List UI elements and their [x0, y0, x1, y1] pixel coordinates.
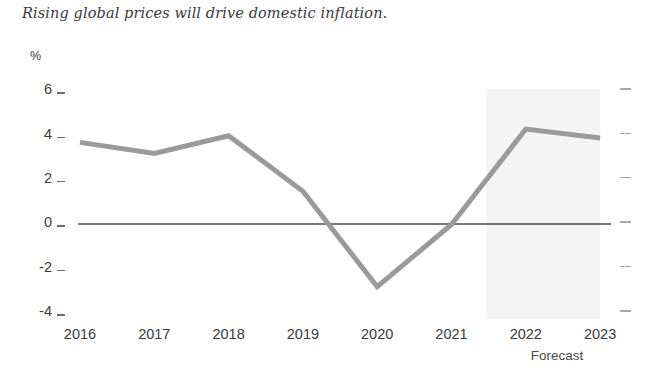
forecast-region-label: Forecast [477, 348, 637, 363]
y-tick-mark [57, 137, 65, 139]
y-tick-mark-right [620, 177, 631, 179]
y-tick-mark [57, 92, 65, 94]
y-tick-mark-right [620, 266, 631, 268]
y-tick-mark [57, 181, 65, 183]
x-tick-label: 2016 [50, 326, 110, 342]
y-tick-mark-right [620, 221, 631, 223]
x-tick-label: 2018 [199, 326, 259, 342]
x-tick-label: 2019 [273, 326, 333, 342]
plot-svg [0, 0, 656, 368]
inflation-line-chart: Rising global prices will drive domestic… [0, 0, 656, 368]
plot-area: % 6420-2-4 20162017201820192020202120222… [0, 0, 656, 368]
y-tick-label: 2 [12, 171, 52, 186]
y-tick-mark [57, 314, 65, 316]
x-tick-label: 2022 [496, 326, 556, 342]
inflation-series-line [80, 129, 600, 287]
y-tick-label: 4 [12, 127, 52, 142]
y-tick-mark [57, 270, 65, 272]
y-tick-label: 0 [12, 215, 52, 230]
y-tick-mark [57, 225, 65, 227]
x-tick-label: 2023 [570, 326, 630, 342]
y-axis-unit-label: % [30, 50, 41, 63]
y-tick-mark-right [620, 133, 631, 135]
y-tick-label: 6 [12, 82, 52, 97]
x-tick-label: 2021 [422, 326, 482, 342]
x-tick-label: 2020 [347, 326, 407, 342]
y-tick-mark-right [620, 310, 631, 312]
y-tick-label: -2 [12, 260, 52, 275]
y-tick-mark-right [620, 88, 631, 90]
y-tick-label: -4 [12, 304, 52, 319]
x-tick-label: 2017 [124, 326, 184, 342]
